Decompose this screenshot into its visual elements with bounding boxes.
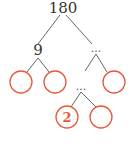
root-node-label: 180 — [49, 0, 78, 17]
node-mid-ellipsis: ... — [76, 80, 87, 93]
edge-9-right — [38, 58, 49, 72]
edge-9-left — [27, 58, 38, 72]
circle-2-label: 2 — [62, 110, 71, 125]
edge-180-right — [66, 15, 92, 44]
factor-tree-diagram: 180 9 ... ... 2 — [0, 0, 131, 146]
node-9-label: 9 — [33, 41, 43, 59]
node-right-ellipsis: ... — [91, 42, 102, 55]
edge-mid-right — [81, 92, 96, 107]
edge-mid-2 — [71, 92, 81, 107]
empty-circle-2[interactable] — [44, 71, 66, 93]
edge-right-circle — [96, 54, 107, 72]
edge-180-9 — [38, 15, 60, 44]
empty-circle-1[interactable] — [10, 71, 32, 93]
edge-right-mid — [85, 54, 96, 71]
empty-circle-4[interactable] — [90, 106, 112, 128]
empty-circle-3[interactable] — [103, 71, 125, 93]
